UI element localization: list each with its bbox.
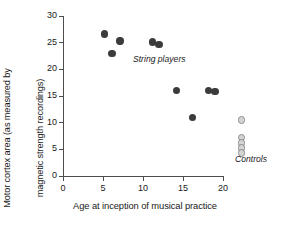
y-axis-line [63,16,64,177]
y-tick-mark [59,42,63,43]
y-axis-title-line-1: Motor cortex area (as measured by [2,45,13,226]
y-tick-mark [59,69,63,70]
y-tick-label: 15 [37,90,57,100]
y-tick-mark [59,16,63,17]
data-point [155,41,162,48]
y-tick-label: 25 [37,37,57,47]
y-tick-label: 0 [37,170,57,180]
y-tick-label: 20 [37,63,57,73]
y-tick-mark [59,122,63,123]
x-tick-mark [143,176,144,181]
data-point [173,87,180,94]
y-axis-title: Motor cortex area (as measured by magnet… [0,45,68,226]
plot-area: 051015202530 05101520 String players Con… [63,16,223,176]
scatter-chart-figure: Motor cortex area (as measured by magnet… [0,0,283,226]
y-tick-mark [59,149,63,150]
data-point [101,30,108,37]
x-tick-label: 20 [213,183,233,193]
y-tick-label: 30 [37,10,57,20]
x-tick-label: 15 [173,183,193,193]
x-tick-label: 0 [53,183,73,193]
data-point [116,37,123,44]
y-tick-mark [59,96,63,97]
x-axis-title: Age at inception of musical practice [40,200,250,211]
x-tick-mark [223,176,224,181]
data-point [189,114,196,121]
y-tick-label: 10 [37,117,57,127]
x-tick-mark [103,176,104,181]
annotation-controls: Controls [235,154,267,164]
annotation-string-players: String players [133,54,186,64]
x-tick-label: 5 [93,183,113,193]
y-tick-label: 5 [37,143,57,153]
x-tick-mark [63,176,64,181]
x-tick-mark [183,176,184,181]
data-point [211,88,218,95]
x-tick-label: 10 [133,183,153,193]
data-point [238,116,246,124]
data-point [108,50,115,57]
